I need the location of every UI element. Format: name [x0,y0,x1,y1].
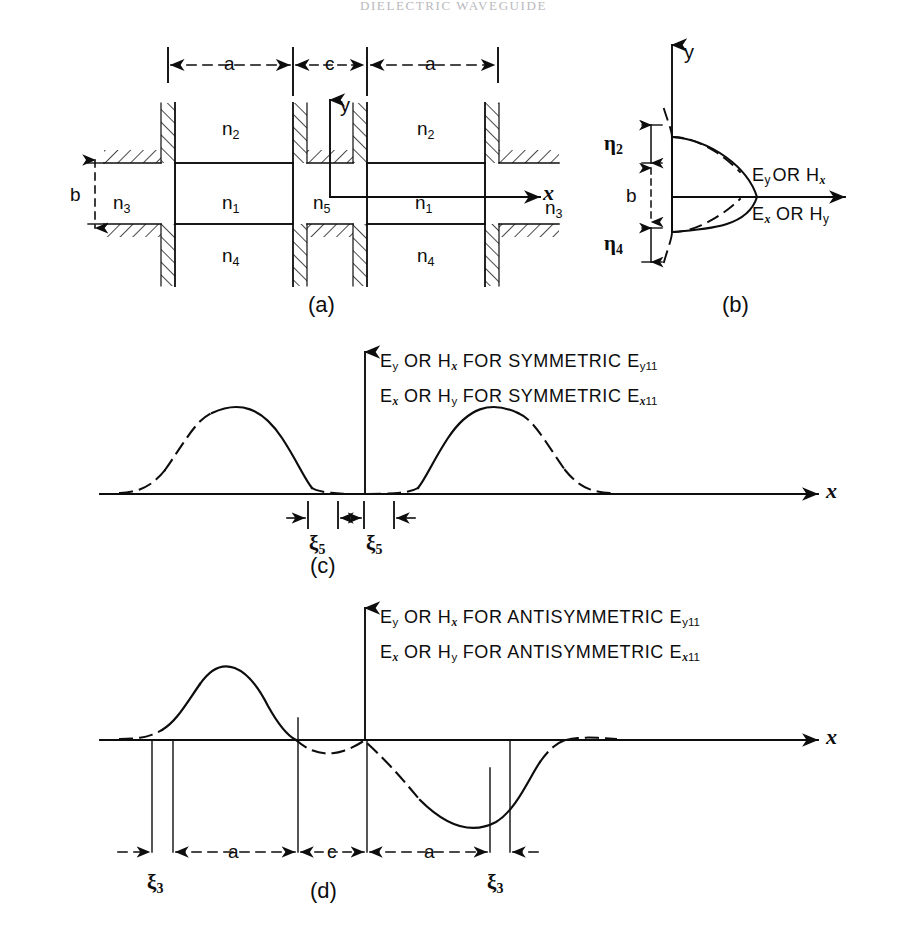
panel-tag-a: (a) [308,294,335,316]
xi3-label-left: ξ3 [147,872,163,896]
dimension-label-b-panel-b: b [626,186,637,205]
dimension-label-a-right-panel-d: a [424,842,435,861]
mode-label-line-1-panel-d: Ey OR Hx FOR ANTISYMMETRIC Ey11 [380,608,700,629]
region-label-n5: n5 [313,193,331,215]
mode-label-line-2-panel-d: Ex OR Hy FOR ANTISYMMETRIC Ex11 [380,643,700,664]
field-label-line-2-panel-b: Ex OR Hy [752,205,829,226]
axis-label-x-panel-d: x [826,726,837,748]
dimension-label-c-panel-d: c [327,842,337,861]
panel-a-artwork: |<- c ->|<--- a --->| --> [88,48,559,286]
panel-b-artwork [642,45,845,262]
axis-label-y-panel-b: y [684,42,694,62]
dimension-label-b-panel-a: b [70,185,81,204]
region-label-n2-right: n2 [417,119,435,141]
xi3-label-right: ξ3 [487,872,503,896]
xi5-label-right: ξ5 [366,533,382,557]
figure-line-art: |<- c ->|<--- a --->| --> [0,0,907,938]
mode-label-line-1-panel-c: Ey OR Hx FOR SYMMETRIC Ey11 [380,352,658,373]
dimension-label-c: c [325,54,335,73]
region-label-n3-right: n3 [545,198,563,220]
region-label-n2-left: n2 [222,119,240,141]
dimension-label-a-left-panel-d: a [228,842,239,861]
region-label-n1-left: n1 [222,193,240,215]
panel-tag-b: (b) [722,294,749,316]
field-label-line-1-panel-b: Ey OR Hx [752,166,825,187]
dimension-label-a-right: a [425,54,436,73]
region-label-n4-right: n4 [417,246,435,268]
eta4-label: η4 [604,233,623,257]
panel-tag-c: (c) [310,555,336,577]
panel-c-artwork [100,352,818,528]
axis-label-x-panel-c: x [826,480,837,502]
mode-label-line-2-panel-c: Ex OR Hy FOR SYMMETRIC Ex11 [380,387,658,408]
dimension-label-a-left: a [224,54,235,73]
region-label-n1-right: n1 [415,193,433,215]
region-label-n3-left: n3 [113,193,131,215]
region-label-n4-left: n4 [222,246,240,268]
axis-label-y-panel-a: y [340,95,350,115]
figure-root: DIELECTRIC WAVEGUIDE [0,0,907,938]
panel-tag-d: (d) [310,880,337,902]
eta2-label: η2 [604,133,623,157]
